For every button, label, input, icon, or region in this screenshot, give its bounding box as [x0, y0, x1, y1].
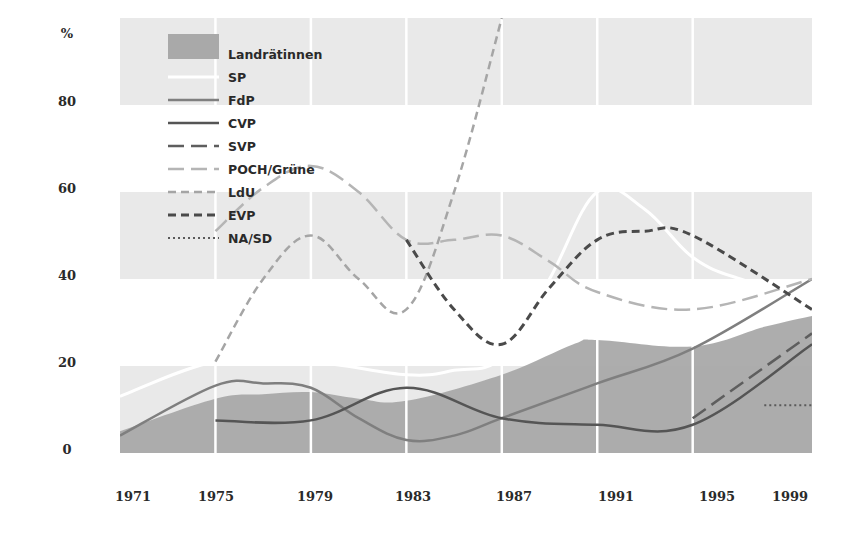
legend-label: SVP [228, 139, 256, 154]
y-tick-label: 60 [58, 181, 76, 196]
legend-item: POCH/Grüne [168, 162, 315, 177]
y-unit-label: % [61, 26, 74, 41]
x-tick-label: 1971 [115, 489, 151, 504]
y-tick-label: 80 [58, 94, 76, 109]
line-chart: LandrätinnenSPFdPCVPSVPPOCH/GrüneLdUEVPN… [0, 0, 856, 535]
legend-label: FdP [228, 93, 255, 108]
legend-label: LdU [228, 185, 255, 200]
y-tick-label: 40 [58, 268, 76, 283]
legend-label: POCH/Grüne [228, 162, 315, 177]
legend-label: NA/SD [228, 231, 272, 246]
x-tick-label: 1987 [496, 489, 532, 504]
x-tick-label: 1979 [297, 489, 333, 504]
legend-label: EVP [228, 208, 255, 223]
y-axis: % 020406080 [58, 26, 76, 457]
legend-swatch [168, 34, 219, 59]
y-tick-label: 0 [62, 442, 71, 457]
x-tick-label: 1999 [772, 489, 808, 504]
legend-label: SP [228, 70, 246, 85]
x-tick-label: 1983 [395, 489, 431, 504]
legend-label: CVP [228, 116, 256, 131]
x-axis: 19711975197919831987199119951999 [115, 489, 808, 504]
grid-band [120, 18, 812, 105]
legend-item: SVP [168, 139, 256, 154]
x-tick-label: 1975 [198, 489, 234, 504]
y-tick-label: 20 [58, 355, 76, 370]
x-tick-label: 1995 [699, 489, 735, 504]
legend-label: Landrätinnen [228, 47, 322, 62]
legend-item: CVP [168, 116, 256, 131]
x-tick-label: 1991 [598, 489, 634, 504]
